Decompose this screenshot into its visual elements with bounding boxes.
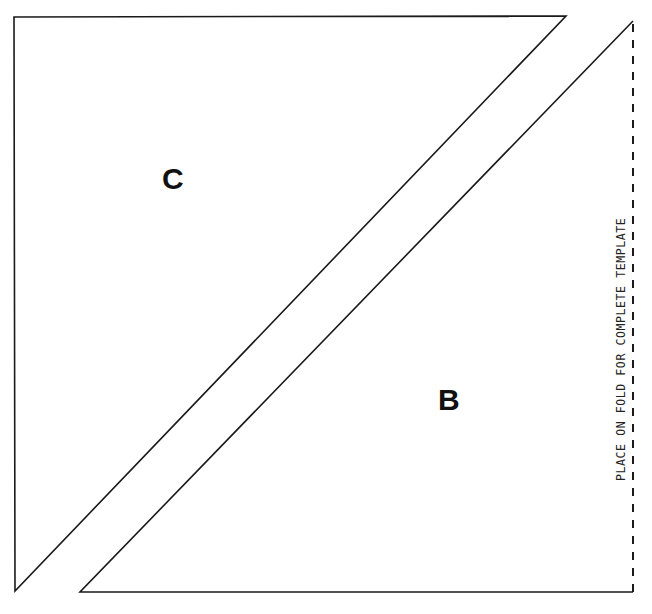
piece-label-b: B bbox=[438, 385, 460, 415]
piece-b-outline bbox=[80, 21, 633, 592]
piece-c-outline bbox=[14, 16, 566, 591]
piece-label-c: C bbox=[162, 164, 184, 194]
fold-instruction: PLACE ON FOLD FOR COMPLETE TEMPLATE bbox=[614, 218, 628, 481]
template-drawing bbox=[0, 0, 652, 614]
